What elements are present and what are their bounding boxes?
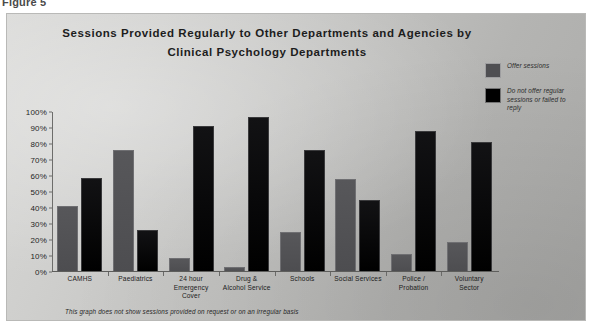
bar-offer-sessions[interactable] xyxy=(169,258,190,272)
x-axis-label-line: Sector xyxy=(442,284,496,293)
x-axis-label: Police /Probation xyxy=(386,275,442,301)
legend-swatch-offer-icon xyxy=(485,63,501,78)
bar-group xyxy=(441,112,497,272)
x-axis-label: 24 hourEmergencyCover xyxy=(163,275,219,301)
bar-no-offer-sessions[interactable] xyxy=(359,200,380,272)
x-axis-label: Schools xyxy=(275,275,331,301)
bar-group xyxy=(219,112,275,272)
legend-item-no-offer-sessions: Do not offer regular sessions or failed … xyxy=(485,87,577,113)
legend-label-offer-sessions: Offer sessions xyxy=(507,62,549,71)
x-axis-label-line: Police / xyxy=(387,275,441,284)
bar-no-offer-sessions[interactable] xyxy=(471,142,492,272)
chart-plot-area: 100%90%80%70%60%50%40%30%20%10%0% xyxy=(52,112,497,272)
bar-offer-sessions[interactable] xyxy=(57,206,78,272)
chart-footnote: This graph does not show sessions provid… xyxy=(65,308,299,315)
bar-no-offer-sessions[interactable] xyxy=(193,126,214,272)
x-axis-label-line: Paediatrics xyxy=(109,275,163,284)
bar-group xyxy=(330,112,386,272)
x-axis-label-line: Emergency xyxy=(164,284,218,293)
bar-offer-sessions[interactable] xyxy=(280,232,301,272)
x-axis-label: Drug &Alcohol Service xyxy=(219,275,275,301)
chart-title-line-1: Sessions Provided Regularly to Other Dep… xyxy=(62,27,471,39)
bar-no-offer-sessions[interactable] xyxy=(415,131,436,272)
bar-group xyxy=(108,112,164,272)
bar-offer-sessions[interactable] xyxy=(391,254,412,272)
bar-no-offer-sessions[interactable] xyxy=(81,178,102,272)
bar-offer-sessions[interactable] xyxy=(335,179,356,272)
bar-offer-sessions[interactable] xyxy=(447,242,468,272)
bar-no-offer-sessions[interactable] xyxy=(137,230,158,272)
chart-legend: Offer sessions Do not offer regular sess… xyxy=(485,62,577,122)
chart-title: Sessions Provided Regularly to Other Dep… xyxy=(47,24,487,62)
bar-no-offer-sessions[interactable] xyxy=(304,150,325,272)
x-axis-label: VoluntarySector xyxy=(441,275,497,301)
x-axis-label: Social Services xyxy=(330,275,386,301)
x-axis-labels: CAMHSPaediatrics24 hourEmergencyCoverDru… xyxy=(52,275,497,301)
x-axis-label-line: 24 hour xyxy=(164,275,218,284)
x-axis-label-line: Drug & xyxy=(220,275,274,284)
x-axis-label-line: Schools xyxy=(276,275,330,284)
bar-group xyxy=(52,112,108,272)
x-axis-label-line: Voluntary xyxy=(442,275,496,284)
x-axis-line xyxy=(52,271,499,272)
chart-title-line-2: Clinical Psychology Departments xyxy=(47,43,487,62)
x-axis-label-line: Cover xyxy=(164,292,218,301)
x-axis-label-line: Probation xyxy=(387,284,441,293)
chart-figure-plate: Sessions Provided Regularly to Other Dep… xyxy=(6,13,586,321)
figure-label: Figure 5 xyxy=(2,0,46,8)
bar-group xyxy=(386,112,442,272)
bar-offer-sessions[interactable] xyxy=(113,150,134,272)
x-axis-label: Paediatrics xyxy=(108,275,164,301)
x-axis-label-line: Alcohol Service xyxy=(220,284,274,293)
bar-groups xyxy=(52,112,497,272)
bar-group xyxy=(275,112,331,272)
bar-no-offer-sessions[interactable] xyxy=(248,117,269,272)
bar-group xyxy=(163,112,219,272)
legend-item-offer-sessions: Offer sessions xyxy=(485,62,577,78)
x-axis-label: CAMHS xyxy=(52,275,108,301)
x-axis-label-line: CAMHS xyxy=(53,275,107,284)
legend-label-no-offer-sessions: Do not offer regular sessions or failed … xyxy=(507,87,577,113)
x-axis-label-line: Social Services xyxy=(331,275,385,284)
legend-swatch-no-offer-icon xyxy=(485,88,501,103)
